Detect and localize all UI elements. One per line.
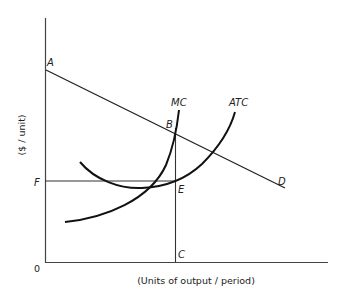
label-b: B <box>166 119 173 130</box>
y-axis-label: ($ / unit) <box>16 114 27 155</box>
label-mc: MC <box>171 97 187 108</box>
cost-curve-diagram: A B C D E F MC ATC 0 (Units of output / … <box>0 0 339 294</box>
label-c: C <box>178 249 185 260</box>
label-atc: ATC <box>228 97 248 108</box>
x-axis-label: (Units of output / period) <box>137 275 255 286</box>
atc-curve <box>80 112 235 188</box>
label-f: F <box>34 177 40 188</box>
origin-label: 0 <box>34 263 40 274</box>
label-d: D <box>278 176 286 187</box>
label-a: A <box>46 57 54 68</box>
label-e: E <box>178 184 185 195</box>
